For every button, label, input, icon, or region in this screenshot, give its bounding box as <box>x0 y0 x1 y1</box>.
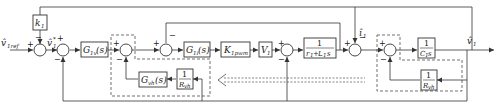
sign-plus: + <box>57 34 64 43</box>
svg-text:v̂: v̂ <box>467 36 472 46</box>
svg-text:s: s <box>428 50 432 58</box>
label-i1: î 1 <box>359 28 367 39</box>
svg-text:1: 1 <box>317 39 322 48</box>
block-g1i: G 1i (s) <box>184 42 210 57</box>
svg-text:1ref: 1ref <box>7 43 19 50</box>
sign-minus: − <box>380 55 387 64</box>
summing-junction-4 <box>160 44 172 56</box>
svg-text:1: 1 <box>53 43 57 49</box>
summing-junction-1 <box>34 44 46 56</box>
gvh-to-sum3-line <box>126 57 138 79</box>
sign-plus: + <box>278 39 285 48</box>
svg-text:vh: vh <box>184 83 191 89</box>
label-v1ref: v̂ 1ref <box>1 38 19 50</box>
svg-text:vh: vh <box>428 84 435 90</box>
svg-text:1: 1 <box>473 41 477 47</box>
block-v1: V 1 <box>259 42 272 57</box>
sign-minus: − <box>54 55 61 64</box>
equivalence-arrow <box>218 74 365 86</box>
svg-text:1: 1 <box>267 50 271 56</box>
label-v1-output: v̂ 1 <box>467 36 477 47</box>
sign-minus: − <box>35 33 42 42</box>
block-inductor-plant: 1 r 1 + L 1 s <box>304 38 336 58</box>
svg-text:(s): (s) <box>96 45 108 55</box>
svg-text:s: s <box>327 50 331 58</box>
block-k1pwm: K 1pwm <box>221 42 250 57</box>
rvh-right-input-line <box>437 50 467 80</box>
rvh-right-feedback-line <box>390 57 420 80</box>
control-block-diagram: + − + − + − + − + − + − + − v̂ 1ref v̂ 1… <box>0 0 496 110</box>
sign-plus: + <box>379 39 386 48</box>
svg-text:(s): (s) <box>198 45 210 55</box>
svg-text:1: 1 <box>182 70 187 79</box>
svg-text:k: k <box>35 18 40 28</box>
sign-minus: − <box>169 31 176 40</box>
svg-text:1: 1 <box>41 23 45 29</box>
rvh-left-input-line <box>193 79 202 101</box>
sign-plus: + <box>153 39 160 48</box>
svg-text:v̂: v̂ <box>47 38 52 48</box>
block-k1: k 1 <box>33 15 47 30</box>
sign-plus: + <box>113 39 120 48</box>
sign-plus: + <box>344 39 351 48</box>
sign-plus: + <box>27 40 34 49</box>
voltage-feedback-line <box>63 57 467 101</box>
svg-text:1: 1 <box>363 33 367 39</box>
block-rvh-right: 1 R vh <box>421 70 437 90</box>
block-capacitor: 1 C 1 s <box>418 38 435 58</box>
svg-text:v̂: v̂ <box>1 38 6 48</box>
sign-minus: − <box>278 55 285 64</box>
block-rvh-left: 1 R vh <box>177 69 193 89</box>
svg-text:*: * <box>53 36 56 42</box>
block-g1v: G 1v (s) <box>81 42 108 57</box>
svg-text:1pwm: 1pwm <box>231 50 248 57</box>
svg-text:1: 1 <box>323 52 327 58</box>
sign-minus: − <box>116 55 123 64</box>
svg-text:(s): (s) <box>155 75 167 85</box>
svg-text:1: 1 <box>424 39 429 48</box>
block-gvh: G vh (s) <box>139 72 167 87</box>
svg-text:1: 1 <box>426 71 431 80</box>
label-v1star: v̂ 1 * <box>47 36 57 49</box>
summing-junction-6 <box>349 44 361 56</box>
